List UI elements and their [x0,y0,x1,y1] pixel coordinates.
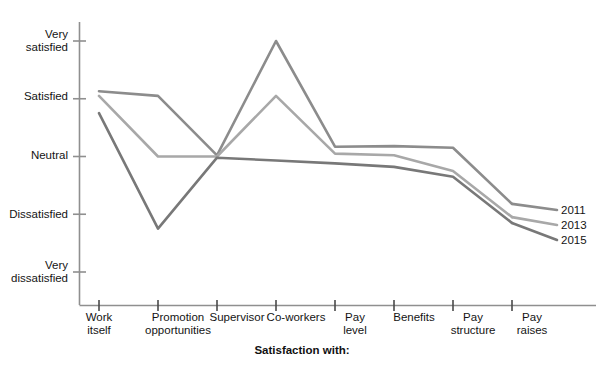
series-tail-2013 [512,217,557,225]
series-label-2015: 2015 [561,234,587,246]
series-tail-2015 [512,223,557,240]
xtick-label-work-itself: Workitself [86,311,113,337]
series-layer [99,41,557,240]
series-label-2013: 2013 [561,219,587,231]
series-label-2011: 2011 [561,204,586,216]
x-axis-title: Satisfaction with: [254,344,349,356]
ytick-label-neutral: Neutral [0,149,68,162]
ytick-label-very-dissatisfied: Verydissatisfied [0,259,68,284]
line-chart: Verysatisfied Satisfied Neutral Dissatis… [0,0,604,366]
xtick-label-co-workers: Co-workers [267,311,326,324]
xtick-label-promotion-opportunities: Promotionopportunities [145,311,211,337]
series-tail-2011 [512,204,557,210]
xtick-label-pay-structure: Paystructure [451,311,496,337]
xtick-label-pay-level: Paylevel [343,311,367,337]
ytick-label-very-satisfied: Verysatisfied [0,28,68,53]
series-line-2013 [99,96,512,217]
xtick-label-benefits: Benefits [393,311,435,324]
xtick-label-supervisor: Supervisor [210,311,265,324]
series-line-2011 [99,41,512,204]
ytick-label-satisfied: Satisfied [0,90,68,103]
ytick-label-dissatisfied: Dissatisfied [0,208,68,221]
xtick-label-pay-raises: Payraises [517,311,548,337]
